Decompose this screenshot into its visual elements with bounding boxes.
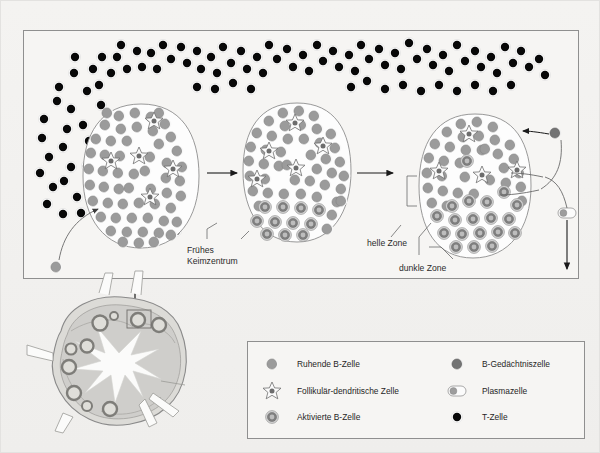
legend-label-fdc: Follikulär-dendritische Zelle: [297, 386, 399, 396]
legend-label-activated-b-cell: Aktivierte B-Zelle: [297, 412, 361, 422]
legend-label-resting-b-cell: Ruhende B-Zelle: [297, 359, 360, 369]
legend-label-t-cell: T-Zelle: [482, 412, 508, 422]
plasma-cell-output: [558, 208, 576, 218]
follicle-early-gc: [243, 103, 351, 242]
legend-item-plasma-cell[interactable]: Plasmazelle: [448, 386, 527, 396]
legend-label-memory-b-cell: B-Gedächtniszelle: [482, 359, 550, 369]
follicle-mature-gc: [419, 114, 531, 258]
lymph-node-cross-section: [27, 271, 186, 433]
label-keimzentrum: Keimzentrum: [187, 256, 238, 266]
activated-b-cell-icon: [266, 411, 279, 424]
label-fruehes: Frühes: [187, 245, 214, 255]
plasma-cell-icon: [448, 386, 466, 396]
legend-label-plasma-cell: Plasmazelle: [482, 386, 527, 396]
memory-b-cell-output: [550, 128, 562, 138]
label-dunkle-zone: dunkle Zone: [399, 263, 447, 273]
t-cell-icon: [451, 411, 462, 422]
memory-b-cell-icon: [452, 359, 464, 369]
label-helle-zone: helle Zone: [367, 238, 407, 248]
figure-page: Frühes Keimzentrum helle Zone dunkle Zon…: [0, 0, 600, 453]
immunology-diagram: Frühes Keimzentrum helle Zone dunkle Zon…: [1, 1, 600, 453]
legend: Ruhende B-Zelle Follikulär-dendritische …: [248, 342, 585, 439]
follicle-naive: [83, 104, 199, 248]
resting-b-cell-icon: [267, 359, 279, 369]
